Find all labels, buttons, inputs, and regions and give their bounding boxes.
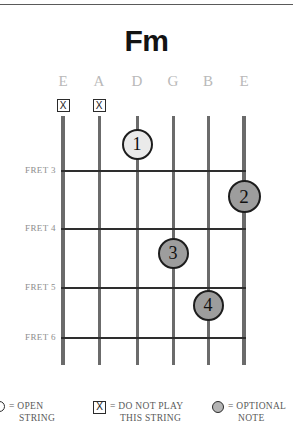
legend-line-2: THIS STRING xyxy=(110,412,183,424)
legend-text-1: = DO NOT PLAYTHIS STRING xyxy=(110,400,183,424)
string-line-4 xyxy=(207,116,210,365)
optional-note-circle-icon xyxy=(212,401,224,413)
legend-item-2: = OPTIONALNOTE xyxy=(212,400,286,424)
fret-line-2 xyxy=(61,287,246,289)
finger-dot-3: 3 xyxy=(158,238,189,269)
fret-line-1 xyxy=(61,228,246,230)
legend-text-0: = OPENSTRING xyxy=(9,400,55,424)
mute-marker-string-0: X xyxy=(57,99,70,112)
legend: = OPENSTRINGX= DO NOT PLAYTHIS STRING= O… xyxy=(0,400,293,433)
chord-diagram-page: Fm EADGBE XXFRET 3FRET 4FRET 5FRET 61234… xyxy=(0,0,293,433)
open-string-icon xyxy=(0,401,5,412)
do-not-play-icon: X xyxy=(93,401,106,414)
legend-line-2: NOTE xyxy=(228,412,286,424)
legend-text-2: = OPTIONALNOTE xyxy=(228,400,286,424)
legend-item-0: = OPENSTRING xyxy=(0,400,55,424)
fret-line-3 xyxy=(61,337,246,339)
string-line-1 xyxy=(98,116,101,365)
string-line-5 xyxy=(242,116,246,365)
fret-label-2: FRET 5 xyxy=(4,282,56,292)
legend-line-1: = OPTIONAL xyxy=(228,401,286,411)
open-string-circle-icon xyxy=(0,401,5,412)
fret-label-3: FRET 6 xyxy=(4,332,56,342)
optional-note-icon xyxy=(212,401,224,413)
string-line-0 xyxy=(61,116,65,365)
fretboard: XXFRET 3FRET 4FRET 5FRET 61234 xyxy=(0,0,293,433)
fret-line-0 xyxy=(61,170,246,172)
fret-label-1: FRET 4 xyxy=(4,223,56,233)
legend-line-1: = OPEN xyxy=(9,401,43,411)
fret-label-0: FRET 3 xyxy=(4,165,56,175)
finger-dot-2: 2 xyxy=(228,180,261,213)
legend-line-2: STRING xyxy=(9,412,55,424)
legend-line-1: = DO NOT PLAY xyxy=(110,401,183,411)
legend-item-1: X= DO NOT PLAYTHIS STRING xyxy=(93,400,183,424)
finger-dot-4: 4 xyxy=(193,290,224,321)
mute-marker-string-1: X xyxy=(93,99,106,112)
do-not-play-x-icon: X xyxy=(93,401,106,414)
finger-dot-1: 1 xyxy=(122,129,153,160)
